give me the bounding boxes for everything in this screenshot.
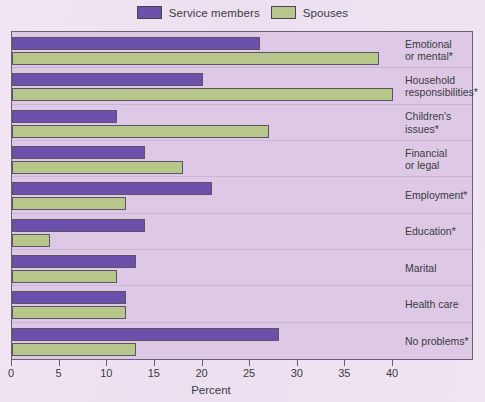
category-row: Children's issues* <box>12 105 472 141</box>
bar-service-members <box>12 110 117 123</box>
bar-spouses <box>12 197 126 210</box>
bar-spouses <box>12 125 269 138</box>
legend-entry-spouses: Spouses <box>271 6 348 19</box>
bar-service-members <box>12 328 279 341</box>
category-label: Household responsibilities* <box>405 73 485 98</box>
x-axis-tick-label: 10 <box>100 367 112 379</box>
x-axis-tick <box>11 360 12 366</box>
x-axis-tick <box>297 360 298 366</box>
bars-group <box>12 214 393 249</box>
bars-group <box>12 105 393 140</box>
bars-group <box>12 250 393 285</box>
bar-service-members <box>12 182 212 195</box>
legend-label-service-members: Service members <box>169 7 260 19</box>
x-axis-tick-label: 15 <box>148 367 160 379</box>
bar-spouses <box>12 234 50 247</box>
category-row: Financial or legal <box>12 141 472 177</box>
bar-service-members <box>12 37 260 50</box>
x-axis-tick-label: 20 <box>195 367 207 379</box>
bars-group <box>12 141 393 176</box>
category-row: Marital <box>12 250 472 286</box>
category-label: Marital <box>405 261 485 274</box>
bar-service-members <box>12 291 126 304</box>
plot-rows-container: Emotional or mental*Household responsibi… <box>12 32 472 359</box>
x-axis-tick-label: 40 <box>386 367 398 379</box>
x-axis-tick <box>392 360 393 366</box>
x-axis-tick <box>154 360 155 366</box>
legend-label-spouses: Spouses <box>303 7 348 19</box>
bar-spouses <box>12 161 183 174</box>
category-label: Financial or legal <box>405 146 485 171</box>
category-row: Household responsibilities* <box>12 68 472 104</box>
x-axis-tick <box>202 360 203 366</box>
category-label: Children's issues* <box>405 110 485 135</box>
x-axis-tick-label: 25 <box>243 367 255 379</box>
bar-service-members <box>12 255 136 268</box>
bar-service-members <box>12 146 145 159</box>
chart-legend: Service members Spouses <box>0 6 485 19</box>
category-label: No problems* <box>405 335 485 348</box>
category-row: Emotional or mental* <box>12 32 472 68</box>
legend-swatch-service-members <box>137 6 162 19</box>
x-axis-tick <box>344 360 345 366</box>
bar-service-members <box>12 73 203 86</box>
category-row: No problems* <box>12 323 472 359</box>
category-row: Health care <box>12 286 472 322</box>
bars-group <box>12 68 393 103</box>
x-axis-tick-label: 0 <box>8 367 14 379</box>
bar-service-members <box>12 219 145 232</box>
bar-spouses <box>12 306 126 319</box>
category-label: Emotional or mental* <box>405 37 485 62</box>
bars-group <box>12 32 393 67</box>
bar-spouses <box>12 52 379 65</box>
category-row: Employment* <box>12 177 472 213</box>
category-label: Employment* <box>405 189 485 202</box>
legend-entry-service-members: Service members <box>137 6 260 19</box>
x-axis: 0510152025303540 Percent <box>11 360 473 402</box>
category-row: Education* <box>12 214 472 250</box>
category-label: Health care <box>405 298 485 311</box>
x-axis-tick <box>59 360 60 366</box>
plot-area: Emotional or mental*Household responsibi… <box>11 31 473 360</box>
x-axis-tick-label: 5 <box>56 367 62 379</box>
x-axis-tick <box>249 360 250 366</box>
x-axis-tick-label: 30 <box>291 367 303 379</box>
bars-group <box>12 286 393 321</box>
x-axis-tick <box>106 360 107 366</box>
bar-spouses <box>12 88 393 101</box>
x-axis-title: Percent <box>11 384 411 396</box>
bar-chart-figure: Service members Spouses Emotional or men… <box>0 0 485 402</box>
x-axis-tick-label: 35 <box>338 367 350 379</box>
bar-spouses <box>12 343 136 356</box>
bars-group <box>12 177 393 212</box>
legend-swatch-spouses <box>271 6 296 19</box>
bars-group <box>12 323 393 359</box>
bar-spouses <box>12 270 117 283</box>
category-label: Education* <box>405 225 485 238</box>
